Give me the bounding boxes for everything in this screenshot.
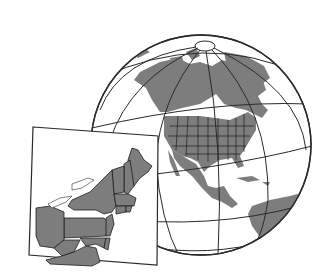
- state-pennsylvania: [64, 218, 108, 238]
- inset-northeast-us: [29, 127, 158, 266]
- map-figure: [0, 0, 330, 279]
- state-ohio: [36, 206, 64, 248]
